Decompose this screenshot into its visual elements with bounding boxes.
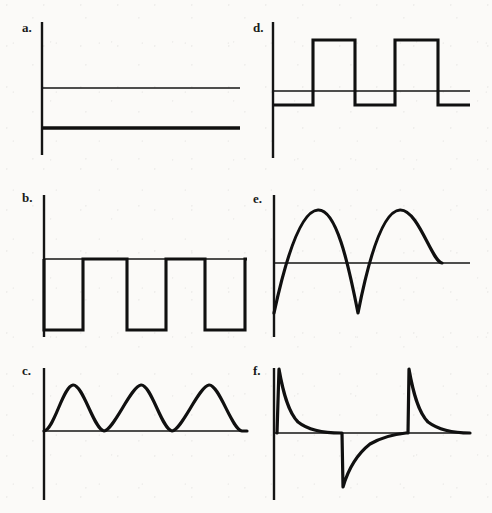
- panel-b: b.: [0, 171, 246, 342]
- panel-e-sine-wave: [274, 210, 442, 313]
- panel-b-plot: [0, 171, 246, 342]
- panel-a-label: a.: [22, 21, 32, 34]
- panel-f-label: f.: [253, 364, 261, 377]
- panel-d-square-wave: [273, 40, 470, 105]
- panel-d-label: d.: [253, 21, 263, 34]
- panel-c-label: c.: [22, 364, 31, 377]
- panel-e: e.: [246, 171, 492, 342]
- panel-e-plot: [246, 171, 492, 342]
- waveform-figure: a. d. b. e. c.: [0, 0, 492, 513]
- panel-a-plot: [0, 0, 246, 171]
- panel-f: f.: [246, 342, 492, 513]
- panel-c-plot: [0, 342, 246, 513]
- panel-a: a.: [0, 0, 246, 171]
- panel-b-label: b.: [22, 191, 32, 204]
- panel-c: c.: [0, 342, 246, 513]
- panel-f-decay-spikes: [277, 369, 470, 487]
- panel-d: d.: [246, 0, 492, 171]
- panel-c-rectified-sine: [44, 385, 247, 431]
- panel-b-square-wave: [44, 259, 247, 330]
- panel-d-plot: [246, 0, 492, 171]
- panel-e-label: e.: [253, 192, 262, 205]
- panel-f-plot: [246, 342, 492, 513]
